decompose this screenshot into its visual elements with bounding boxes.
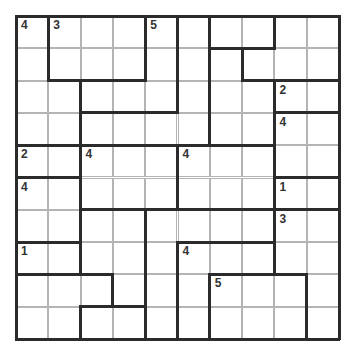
grid-cell[interactable]: 3 [274,210,306,242]
grid-cell[interactable] [16,81,48,113]
grid-cell[interactable] [210,178,242,210]
grid-cell[interactable]: 4 [274,113,306,145]
grid-cell[interactable]: 4 [178,242,210,274]
grid-cell[interactable] [113,307,145,339]
grid-cell[interactable] [178,16,210,48]
grid-cell[interactable] [145,178,177,210]
grid-cell[interactable] [81,210,113,242]
grid-cell[interactable] [274,274,306,306]
grid-cell[interactable] [210,307,242,339]
grid-cell[interactable] [210,113,242,145]
grid-cell[interactable] [178,113,210,145]
grid-cell[interactable] [210,210,242,242]
grid-cell[interactable] [48,145,80,177]
grid-cell[interactable] [48,178,80,210]
grid-cell[interactable]: 4 [16,16,48,48]
grid-cell[interactable] [145,274,177,306]
grid-cell[interactable]: 5 [210,274,242,306]
grid-cell[interactable] [81,274,113,306]
grid-cell[interactable] [307,81,339,113]
grid-cell[interactable] [113,48,145,80]
grid-cell[interactable]: 4 [81,145,113,177]
grid-cell[interactable] [48,48,80,80]
grid-cell[interactable] [16,307,48,339]
grid-cell[interactable] [242,242,274,274]
grid-cell[interactable] [178,48,210,80]
grid-cell[interactable] [113,274,145,306]
grid-cell[interactable]: 4 [178,145,210,177]
grid-cell[interactable] [210,16,242,48]
grid-cell[interactable] [242,48,274,80]
grid-cell[interactable] [307,307,339,339]
grid-cell[interactable] [242,145,274,177]
grid-cell[interactable] [274,307,306,339]
grid-cell[interactable] [48,210,80,242]
grid-cell[interactable] [178,274,210,306]
grid-cell[interactable] [242,274,274,306]
grid-cell[interactable] [145,113,177,145]
grid-cell[interactable] [178,307,210,339]
grid-cell[interactable] [178,81,210,113]
grid-cell[interactable] [16,48,48,80]
grid-cell[interactable] [113,145,145,177]
grid-cell[interactable] [81,307,113,339]
grid-cell[interactable] [113,113,145,145]
grid-cell[interactable]: 1 [16,242,48,274]
grid-cell[interactable] [81,242,113,274]
grid-cell[interactable] [145,210,177,242]
grid-cell[interactable] [307,48,339,80]
grid-cell[interactable] [113,242,145,274]
grid-cell[interactable] [242,16,274,48]
grid-cell[interactable] [113,16,145,48]
grid-cell[interactable] [48,81,80,113]
grid-cell[interactable] [48,307,80,339]
grid-cell[interactable] [145,81,177,113]
grid-cell[interactable] [210,81,242,113]
grid-cell[interactable]: 3 [48,16,80,48]
grid-cell[interactable] [113,178,145,210]
grid-cell[interactable] [242,113,274,145]
grid-cell[interactable] [48,113,80,145]
grid-cell[interactable] [178,178,210,210]
grid-cell[interactable] [145,242,177,274]
grid-cell[interactable] [307,16,339,48]
grid-cell[interactable] [307,274,339,306]
grid-cell[interactable] [81,16,113,48]
grid-cell[interactable] [16,274,48,306]
grid-cell[interactable]: 2 [16,145,48,177]
grid-cell[interactable] [81,113,113,145]
grid-cell[interactable] [145,307,177,339]
grid-cell[interactable] [48,274,80,306]
grid-cell[interactable]: 1 [274,178,306,210]
grid-cell[interactable] [307,145,339,177]
grid-cell[interactable] [48,242,80,274]
grid-cell[interactable] [242,81,274,113]
grid-cell[interactable] [307,178,339,210]
grid-cell[interactable]: 4 [16,178,48,210]
grid-cell[interactable] [242,210,274,242]
grid-cell[interactable] [307,210,339,242]
grid-cell[interactable] [113,81,145,113]
grid-cell[interactable] [16,210,48,242]
grid-cell[interactable] [210,242,242,274]
grid-cell[interactable]: 5 [145,16,177,48]
grid-cell[interactable] [16,113,48,145]
grid-cell[interactable] [242,178,274,210]
grid-cell[interactable] [81,48,113,80]
grid-cell[interactable]: 2 [274,81,306,113]
grid-cell[interactable] [210,48,242,80]
grid-cell[interactable] [274,48,306,80]
grid-cell[interactable] [274,145,306,177]
grid-cell[interactable] [274,16,306,48]
grid-cell[interactable] [81,178,113,210]
grid-cell[interactable] [145,48,177,80]
grid-cell[interactable] [307,242,339,274]
grid-cell[interactable] [178,210,210,242]
grid-cell[interactable] [81,81,113,113]
grid-cell[interactable] [113,210,145,242]
grid-cell[interactable] [307,113,339,145]
grid-cell[interactable] [210,145,242,177]
grid-cell[interactable] [274,242,306,274]
grid-cell[interactable] [145,145,177,177]
grid-cell[interactable] [242,307,274,339]
